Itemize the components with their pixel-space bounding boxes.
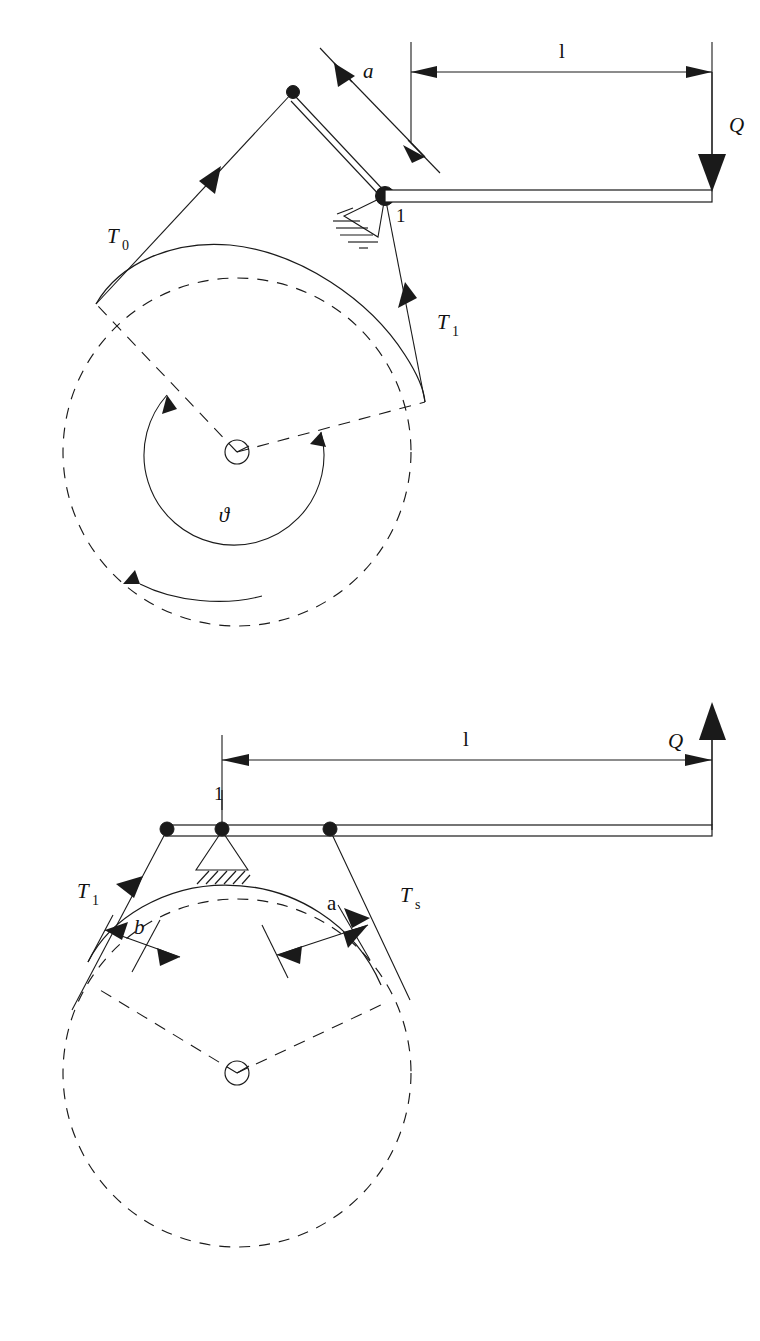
lower-T1-arrowhead <box>116 876 143 898</box>
lower-T1-line <box>72 830 167 1010</box>
lower-diagram-group: T 1 T s b a <box>63 702 726 1247</box>
lower-Ts-label: T <box>400 883 413 907</box>
upper-T0-line <box>96 92 293 304</box>
upper-a-label: a <box>363 59 374 83</box>
upper-pivot-mark-label: 1 <box>396 205 406 226</box>
lower-radius-left <box>100 990 237 1073</box>
mechanism-diagram-svg: ϑ T 0 T 1 <box>0 0 760 1341</box>
upper-band-arc <box>96 244 425 402</box>
upper-link-edge-b <box>291 101 383 199</box>
lower-radius-right <box>237 1003 385 1073</box>
lower-beam-node-pivot <box>215 822 229 836</box>
upper-lever-beam <box>385 190 712 202</box>
lower-Ts-line <box>330 830 410 1000</box>
lower-T1-subscript: 1 <box>92 893 99 908</box>
upper-T1-arrowhead <box>398 282 417 308</box>
upper-support-hatching <box>333 208 378 248</box>
upper-radius-left <box>96 304 237 452</box>
upper-l-arrow-right <box>686 66 712 78</box>
upper-node-dot <box>287 86 300 99</box>
lower-b-arrow-right <box>157 948 180 966</box>
lower-center-tick <box>237 1066 249 1073</box>
lower-l-label: l <box>463 727 469 751</box>
upper-wrap-arrow-right <box>310 432 326 447</box>
lower-beam-node-left <box>160 822 174 836</box>
upper-l-arrow-left <box>411 66 437 78</box>
upper-wrap-angle-arc <box>144 395 324 545</box>
lower-b-label: b <box>134 915 145 939</box>
lower-a-arrow-left <box>277 946 302 964</box>
upper-T1-label: T <box>437 310 450 334</box>
upper-T1-subscript: 1 <box>452 324 459 339</box>
lower-l-arrow-left <box>222 754 249 766</box>
figure-root: ϑ T 0 T 1 <box>0 0 760 1341</box>
upper-link-edge-a <box>295 96 387 194</box>
lower-a-label: a <box>327 891 337 915</box>
upper-rotation-arrowhead <box>123 570 140 584</box>
lower-Q-label: Q <box>668 729 683 753</box>
lower-support-hatching <box>197 871 250 884</box>
upper-rotation-arc <box>140 584 262 601</box>
lower-Ts-subscript: s <box>415 897 420 912</box>
upper-T0-label: T <box>107 224 120 248</box>
lower-support-triangle <box>196 831 248 870</box>
lower-beam <box>165 825 712 836</box>
lower-l-arrow-right <box>685 754 712 766</box>
upper-diagram-group: ϑ T 0 T 1 <box>63 39 744 626</box>
lower-a-tick-inner <box>262 925 288 978</box>
upper-Q-label: Q <box>729 113 744 137</box>
lower-Q-arrowhead <box>699 702 726 740</box>
upper-T0-subscript: 0 <box>122 238 129 253</box>
lower-beam-node-right <box>323 822 337 836</box>
lower-T1-label: T <box>77 879 90 903</box>
upper-Q-arrowhead <box>698 154 726 192</box>
lower-Ts-arrowhead <box>344 908 370 928</box>
upper-a-arrowhead-top <box>334 63 355 87</box>
upper-l-label: l <box>559 39 565 63</box>
upper-wrap-angle-label: ϑ <box>219 503 231 527</box>
upper-radius-right <box>237 402 425 452</box>
